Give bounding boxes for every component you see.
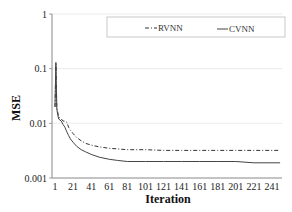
x-axis-title: Iteration — [145, 192, 191, 206]
x-tick-label: 221 — [246, 181, 261, 192]
y-tick-label: 0.001 — [25, 173, 48, 184]
x-tick-label: 1 — [53, 181, 58, 192]
x-tick-label: 21 — [68, 181, 78, 192]
axes — [49, 14, 282, 178]
y-tick-label: 0.1 — [35, 63, 48, 74]
y-tick-label: 1 — [42, 9, 47, 20]
series-rvnn-line — [55, 64, 280, 150]
x-tick-label: 241 — [265, 181, 280, 192]
x-tick-label: 181 — [210, 181, 225, 192]
x-tick-label: 161 — [192, 181, 207, 192]
x-tick-label: 41 — [86, 181, 96, 192]
x-tick-label: 141 — [174, 181, 189, 192]
x-tick-labels: 121416181101121141161181201221241 — [53, 181, 280, 192]
x-tick-label: 81 — [122, 181, 132, 192]
legend-box — [107, 17, 285, 37]
y-tick-labels: 10.10.010.001 — [25, 9, 48, 184]
x-tick-label: 121 — [156, 181, 171, 192]
x-tick-label: 61 — [104, 181, 114, 192]
legend-cvnn-label: CVNN — [229, 24, 255, 34]
series-lines — [55, 62, 280, 162]
x-tick-label: 101 — [138, 181, 153, 192]
y-axis-title: MSE — [9, 95, 23, 121]
legend-rvnn-label: RVNN — [158, 23, 183, 33]
legend: RVNN CVNN — [107, 17, 285, 37]
y-tick-label: 0.01 — [30, 118, 48, 129]
series-cvnn-line — [55, 62, 280, 162]
mse-chart: 10.10.010.001 12141618110112114116118120… — [0, 0, 292, 212]
x-tick-label: 201 — [228, 181, 243, 192]
